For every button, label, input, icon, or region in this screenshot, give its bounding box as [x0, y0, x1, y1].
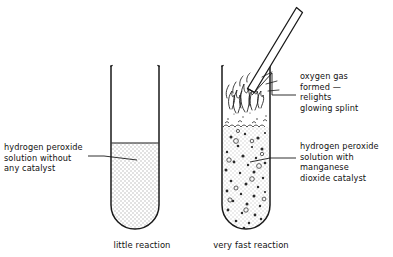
label-hydrogen-peroxide-no-catalyst: hydrogen peroxide solution without any c…	[4, 142, 112, 174]
label-oxygen-gas-formed: oxygen gas formed — relights glowing spl…	[300, 71, 392, 113]
glowing-splint	[248, 8, 303, 93]
surface-froth	[223, 120, 267, 128]
right-tube-liquid	[223, 112, 269, 229]
escaping-bubbles	[227, 112, 266, 119]
caption-little-reaction: little reaction	[107, 240, 177, 250]
left-test-tube	[110, 65, 159, 229]
diagram-canvas	[0, 0, 393, 257]
label-hydrogen-peroxide-with-catalyst: hydrogen peroxide solution with manganes…	[300, 141, 393, 183]
caption-very-fast-reaction: very fast reaction	[207, 240, 295, 250]
right-test-tube	[221, 65, 270, 229]
catalysis-diagram: hydrogen peroxide solution without any c…	[0, 0, 393, 257]
left-tube-liquid	[112, 143, 158, 228]
